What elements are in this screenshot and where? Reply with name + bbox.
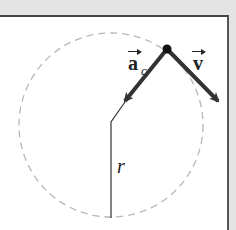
acceleration-subscript: c: [141, 64, 147, 77]
particle-dot: [163, 45, 172, 54]
radius-label: r: [117, 156, 125, 176]
velocity-label: v: [193, 53, 203, 73]
circular-motion-diagram: [0, 0, 236, 230]
acceleration-label: a: [128, 53, 138, 73]
